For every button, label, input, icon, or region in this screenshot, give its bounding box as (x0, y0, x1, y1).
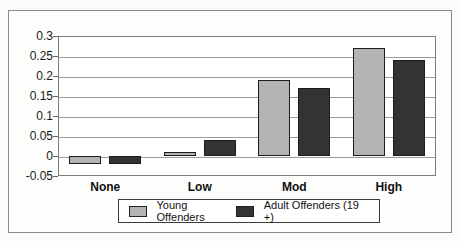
y-tick-label: 0.25 (9, 50, 53, 62)
y-tick-0-05 (53, 136, 58, 137)
y-tick-0-3 (53, 36, 58, 37)
bar-adult-offenders-19-mod (298, 88, 330, 156)
legend-label-young-offenders: Young Offenders (157, 199, 237, 223)
legend-swatch-young-offenders (129, 206, 147, 217)
bar-young-offenders-none (69, 156, 101, 164)
y-tick-label: 0.3 (9, 30, 53, 42)
y-tick-label: -0.05 (9, 170, 53, 182)
y-tick-0-15 (53, 96, 58, 97)
x-category-label-none: None (63, 180, 147, 194)
legend-label-adult-offenders-19: Adult Offenders (19 +) (264, 199, 369, 223)
y-tick-label: 0.05 (9, 130, 53, 142)
y-tick-label: 0 (9, 150, 53, 162)
bar-adult-offenders-19-low (204, 140, 236, 156)
legend: Young OffendersAdult Offenders (19 +) (118, 199, 380, 223)
y-tick-label: 0.15 (9, 90, 53, 102)
legend-item-young-offenders: Young Offenders (129, 199, 236, 223)
bar-young-offenders-mod (258, 80, 290, 156)
risk-level-effect-size-chart: Young OffendersAdult Offenders (19 +) 0.… (0, 0, 461, 241)
y-tick-0-25 (53, 56, 58, 57)
x-category-label-low: Low (158, 180, 242, 194)
y-tick-0 (53, 156, 58, 157)
y-tick-0-05 (53, 176, 58, 177)
bar-adult-offenders-19-high (393, 60, 425, 156)
y-tick-0-1 (53, 116, 58, 117)
y-tick-0-2 (53, 76, 58, 77)
y-tick-label: 0.2 (9, 70, 53, 82)
legend-item-adult-offenders-19: Adult Offenders (19 +) (236, 199, 369, 223)
bar-young-offenders-low (164, 152, 196, 156)
x-category-label-high: High (347, 180, 431, 194)
y-tick-label: 0.1 (9, 110, 53, 122)
bar-adult-offenders-19-none (109, 156, 141, 164)
bar-young-offenders-high (353, 48, 385, 156)
chart-frame: Young OffendersAdult Offenders (19 +) 0.… (8, 10, 452, 233)
x-category-label-mod: Mod (252, 180, 336, 194)
legend-swatch-adult-offenders-19 (236, 206, 254, 217)
